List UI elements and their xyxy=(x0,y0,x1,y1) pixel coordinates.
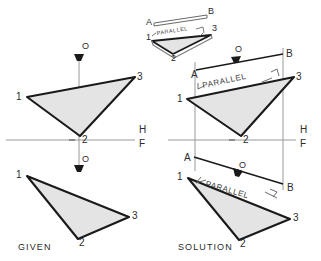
vertex-label-1-top-given: 1 xyxy=(16,91,22,102)
point-label-o-front-solution: O xyxy=(239,160,246,170)
caption-given: GIVEN xyxy=(18,242,52,252)
endpoint-label-a-front: A xyxy=(184,152,191,163)
endpoint-label-a-top: A xyxy=(191,69,198,80)
triangle-front-view-solution xyxy=(188,178,290,240)
vertex-label-1-front-solution: 1 xyxy=(177,171,183,182)
triangle-front-view-given xyxy=(27,176,129,239)
point-label-o-front-given: O xyxy=(82,154,89,164)
vertex-label-3-top-given: 3 xyxy=(137,71,143,82)
point-o-top-given xyxy=(74,54,84,61)
vertex-label-3-front-given: 3 xyxy=(132,210,138,221)
triangle-top-view-given xyxy=(27,77,135,136)
descriptive-geometry-drawing: H F H F 1 3 2 1 3 2 1 3 2 1 3 2 1 3 2 O … xyxy=(0,0,321,261)
fold-label-h-given: H xyxy=(139,124,147,135)
vertex-label-1-pictorial: 1 xyxy=(146,32,151,42)
vertex-label-2-front-given: 2 xyxy=(79,237,85,248)
line-ab-pictorial xyxy=(154,15,207,26)
vertex-label-2-top-solution: 2 xyxy=(243,134,249,145)
vertex-label-2-front-solution: 2 xyxy=(240,238,246,249)
triangle-pictorial xyxy=(152,35,211,54)
fold-label-h-solution: H xyxy=(300,124,308,135)
vertex-label-3-front-solution: 3 xyxy=(293,212,299,223)
fold-label-f-given: F xyxy=(139,138,145,149)
annotation-parallel-pictorial: PARALLEL xyxy=(156,25,188,36)
endpoint-label-b-pictorial: B xyxy=(208,6,214,16)
point-label-o-top-given: O xyxy=(82,41,89,51)
vertex-label-3-pictorial: 3 xyxy=(212,23,217,33)
vertex-label-2-top-given: 2 xyxy=(82,134,88,145)
point-o-front-given xyxy=(74,165,84,172)
fold-label-f-solution: F xyxy=(300,138,306,149)
vertex-label-3-top-solution: 3 xyxy=(296,71,302,82)
endpoint-label-b-front: B xyxy=(287,182,294,193)
endpoint-label-a-pictorial: A xyxy=(146,17,152,27)
vertex-label-1-front-given: 1 xyxy=(16,169,22,180)
endpoint-label-b-top: B xyxy=(286,48,293,59)
caption-solution: SOLUTION xyxy=(178,242,233,252)
vertex-label-2-pictorial: 2 xyxy=(171,53,176,63)
technical-drawing-figure: H F H F 1 3 2 1 3 2 1 3 2 1 3 2 1 3 2 O … xyxy=(0,0,321,261)
point-label-o-top-solution: O xyxy=(235,44,242,54)
vertex-label-1-top-solution: 1 xyxy=(177,93,183,104)
